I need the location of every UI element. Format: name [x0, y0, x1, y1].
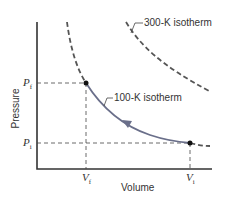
final-state-point [84, 81, 89, 86]
pv-diagram: 300-K isotherm 100-K isotherm Pf Pi Vf V… [0, 0, 226, 200]
isotherm-100-upper [67, 22, 86, 83]
leader-100 [104, 98, 113, 106]
initial-state-point [188, 141, 193, 146]
tick-pf: Pf [23, 76, 32, 91]
label-300k-isotherm: 300-K isotherm [144, 17, 212, 28]
isotherm-100-lower [190, 143, 210, 146]
tick-vi: Vi [186, 171, 195, 186]
diagram-canvas [0, 0, 226, 200]
tick-vf: Vf [82, 171, 91, 186]
isotherm-300 [126, 22, 211, 92]
tick-pi: Pi [23, 136, 32, 151]
x-axis-label: Volume [121, 182, 154, 193]
label-100k-isotherm: 100-K isotherm [114, 92, 182, 103]
y-axis-label: Pressure [10, 88, 21, 128]
